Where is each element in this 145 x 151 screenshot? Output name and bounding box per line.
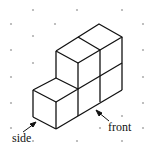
side-label: side xyxy=(12,131,31,145)
front-label: front xyxy=(108,120,132,134)
isometric-diagram: side front xyxy=(0,0,145,151)
cube-edges xyxy=(33,24,122,129)
